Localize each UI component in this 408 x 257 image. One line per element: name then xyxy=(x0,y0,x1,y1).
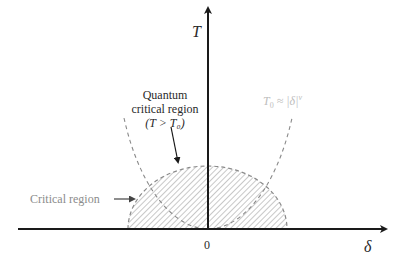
quantum-critical-arrow xyxy=(171,127,178,162)
origin-label: 0 xyxy=(204,238,210,252)
quantum-critical-label-line2: critical region xyxy=(132,102,199,116)
quantum-critical-label-line3: (T > T₀) xyxy=(145,116,184,130)
temperature-axis-label: T xyxy=(192,23,202,40)
crossover-formula: T0 ≈ |δ|ν xyxy=(263,93,302,110)
delta-axis-label: δ xyxy=(364,238,372,255)
critical-region-label: Critical region xyxy=(30,192,100,206)
quantum-critical-label-line1: Quantum xyxy=(143,88,188,102)
phase-diagram: T δ 0 Quantum critical region (T > T₀) C… xyxy=(0,0,408,257)
